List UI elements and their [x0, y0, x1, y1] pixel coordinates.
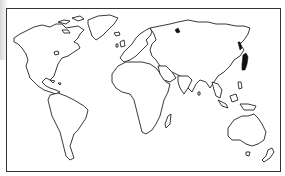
north-america: [14, 24, 84, 94]
british-isles: [116, 40, 125, 47]
indonesia: [218, 94, 256, 110]
south-america: [48, 93, 88, 160]
greenland: [88, 15, 118, 40]
new-zealand: [262, 148, 274, 162]
iceland: [114, 32, 120, 36]
australia: [228, 114, 266, 146]
hudson-island: [54, 51, 59, 55]
tasmania: [246, 152, 250, 156]
se-asia: [212, 82, 222, 98]
sri-lanka: [198, 92, 200, 95]
japan: [242, 53, 248, 70]
caribbean: [50, 80, 61, 85]
world-map: [0, 0, 285, 176]
india: [178, 76, 192, 94]
philippines: [238, 82, 242, 89]
madagascar: [165, 114, 171, 128]
